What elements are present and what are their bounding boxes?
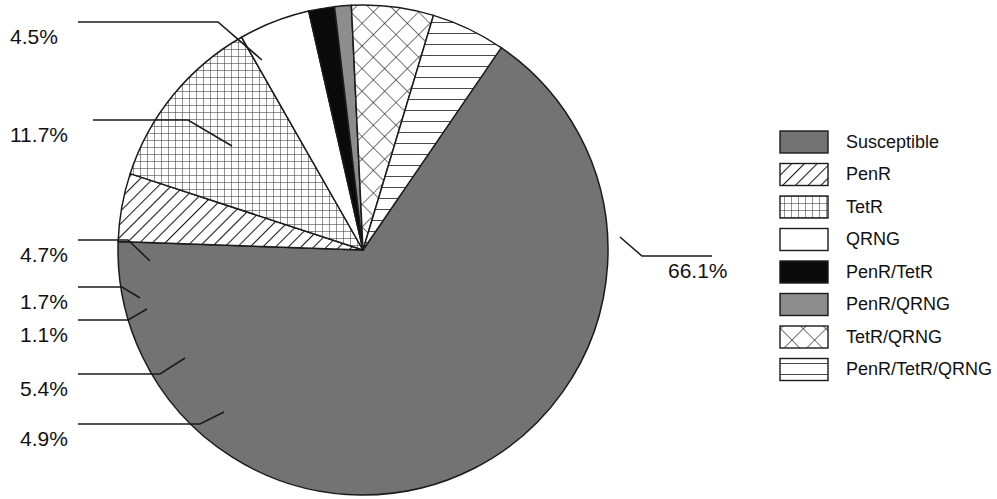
- legend-swatch-penr-qrng: [780, 294, 828, 316]
- chart-canvas: Susceptible 66.1%PenR 4.5%TetR 11.7%QRNG…: [0, 0, 997, 499]
- legend-swatch-penr-tetr-qrng: [780, 359, 828, 381]
- legend-label-penr-tetr: PenR/TetR: [846, 262, 933, 282]
- legend-swatch-susceptible: [780, 131, 828, 153]
- legend-label-susceptible: Susceptible: [846, 132, 939, 152]
- pie-chart-figure: Susceptible 66.1%PenR 4.5%TetR 11.7%QRNG…: [0, 0, 997, 499]
- callout-penr-tetr-qrng: 4.9%: [20, 427, 68, 450]
- callout-penr: 4.5%: [10, 25, 58, 48]
- callout-penr-qrng: 1.1%: [20, 323, 68, 346]
- legend-swatch-tetr: [780, 196, 828, 218]
- callout-qrng: 4.7%: [20, 243, 68, 266]
- legend-label-tetr-qrng: TetR/QRNG: [846, 327, 942, 347]
- legend-swatch-tetr-qrng: [780, 326, 828, 348]
- legend-label-penr-tetr-qrng: PenR/TetR/QRNG: [846, 359, 992, 379]
- callout-penr-tetr: 1.7%: [20, 290, 68, 313]
- legend-label-penr: PenR: [846, 164, 891, 184]
- legend-label-penr-qrng: PenR/QRNG: [846, 294, 950, 314]
- callout-tetr: 11.7%: [10, 123, 68, 146]
- callout-tetr-qrng: 5.4%: [20, 377, 68, 400]
- pie-slices-group: Susceptible 66.1%PenR 4.5%TetR 11.7%QRNG…: [118, 5, 608, 495]
- callout-susceptible: 66.1%: [668, 259, 728, 282]
- legend-swatch-penr: [780, 164, 828, 186]
- legend-swatch-penr-tetr: [780, 261, 828, 283]
- legend-label-tetr: TetR: [846, 197, 883, 217]
- legend-label-qrng: QRNG: [846, 229, 900, 249]
- legend-swatch-qrng: [780, 229, 828, 251]
